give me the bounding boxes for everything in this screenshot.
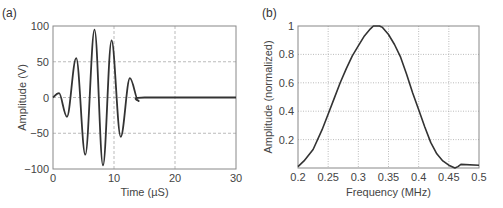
chart-a: (a) 100500−50−100 0102030 Time (µS) Ampl… xyxy=(2,6,242,198)
y-axis-label-b: Amplitude (normalized) xyxy=(262,40,274,153)
x-tick-label: 10 xyxy=(108,172,120,184)
y-tick-label: 0 xyxy=(43,92,49,104)
panel-label-a: (a) xyxy=(2,6,17,20)
x-tick-label: 0.35 xyxy=(378,171,399,183)
y-axis-label-a: Amplitude (V) xyxy=(16,64,28,131)
x-ticks-a: 0102030 xyxy=(50,172,242,184)
x-tick-label: 0.45 xyxy=(438,171,459,183)
y-tick-label: 0.2 xyxy=(279,134,294,146)
figure: (a) 100500−50−100 0102030 Time (µS) Ampl… xyxy=(0,0,503,208)
grid-b xyxy=(298,26,479,168)
waveform-line xyxy=(53,30,236,166)
y-tick-label: 50 xyxy=(37,56,49,68)
y-tick-label: −50 xyxy=(30,127,49,139)
y-tick-label: 0.8 xyxy=(279,48,294,60)
x-tick-label: 0.2 xyxy=(290,171,305,183)
panel-label-b: (b) xyxy=(262,6,277,20)
y-tick-label: 1 xyxy=(288,20,294,32)
y-tick-label: 100 xyxy=(31,20,49,32)
y-tick-label: −100 xyxy=(24,163,49,175)
x-tick-label: 0.4 xyxy=(411,171,426,183)
x-axis-label-b: Frequency (MHz) xyxy=(346,186,431,198)
y-ticks-b: 10.80.60.40.2 xyxy=(279,20,294,146)
chart-b: (b) 10.80.60.40.2 0.20.250.30.350.40.450… xyxy=(262,6,487,198)
x-tick-label: 20 xyxy=(169,172,181,184)
x-tick-label: 0.5 xyxy=(471,171,486,183)
x-tick-label: 0 xyxy=(50,172,56,184)
x-axis-label-a: Time (µS) xyxy=(120,186,168,198)
x-tick-label: 30 xyxy=(230,172,242,184)
x-ticks-b: 0.20.250.30.350.40.450.5 xyxy=(290,171,486,183)
x-tick-label: 0.25 xyxy=(317,171,338,183)
x-tick-label: 0.3 xyxy=(351,171,366,183)
y-tick-label: 0.4 xyxy=(279,105,294,117)
y-tick-label: 0.6 xyxy=(279,77,294,89)
